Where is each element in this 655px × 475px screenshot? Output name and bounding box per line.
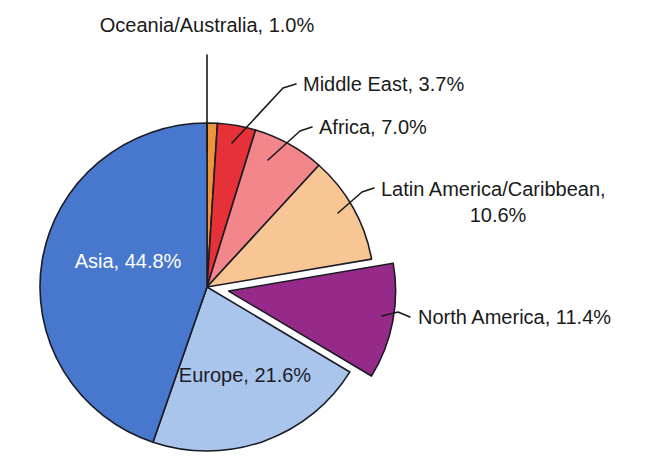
slice-label-africa: Africa, 7.0%	[319, 116, 427, 138]
slice-label-north-america: North America, 11.4%	[418, 306, 611, 328]
slice-label-oceania: Oceania/Australia, 1.0%	[100, 14, 315, 36]
slice-label-asia: Asia, 44.8%	[75, 250, 182, 272]
slice-label-europe: Europe, 21.6%	[179, 364, 312, 386]
slice-label-latin-america-line1: Latin America/Caribbean,	[381, 178, 606, 200]
pie-chart-figure: Oceania/Australia, 1.0% Middle East, 3.7…	[0, 0, 655, 475]
pie-chart-svg: Oceania/Australia, 1.0% Middle East, 3.7…	[0, 0, 655, 475]
slice-label-middle-east: Middle East, 3.7%	[303, 73, 464, 95]
slice-label-latin-america-line2: 10.6%	[470, 204, 527, 226]
